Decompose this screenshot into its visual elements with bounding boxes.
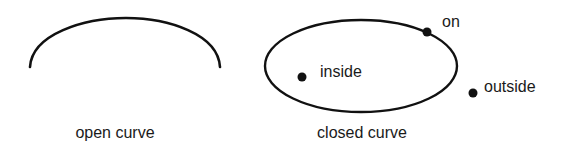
outside-point-dot xyxy=(469,89,478,98)
outside-point-label: outside xyxy=(484,78,536,95)
closed-curve-caption: closed curve xyxy=(317,124,407,141)
on-point-dot xyxy=(423,28,432,37)
curves-diagram: open curve on inside outside closed curv… xyxy=(0,0,562,149)
closed-curve-figure: on inside outside closed curve xyxy=(265,13,536,141)
inside-point-dot xyxy=(298,73,307,82)
open-curve-arc xyxy=(30,18,220,67)
open-curve-caption: open curve xyxy=(75,124,154,141)
inside-point-label: inside xyxy=(320,63,362,80)
on-point-label: on xyxy=(442,13,460,30)
open-curve-figure: open curve xyxy=(30,18,220,141)
